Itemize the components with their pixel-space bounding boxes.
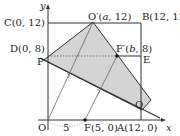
label-P: P	[37, 56, 44, 67]
label-C: C(0, 12)	[4, 17, 45, 28]
folded-region	[44, 22, 151, 110]
label-F-prime: F′(b, 8)	[116, 43, 152, 54]
right-angle-mark-2	[97, 89, 100, 94]
label-A: A(12, 0)	[116, 122, 158, 133]
label-B: B(12, 12)	[142, 11, 180, 22]
folding-diagram: y x O C(0, 12) B(12, 12) D(0, 8) P E O′(…	[0, 0, 180, 136]
label-F: F(5, 0)	[84, 122, 118, 133]
y-axis-arrow-icon	[46, 4, 50, 9]
label-D: D(0, 8)	[10, 43, 45, 54]
label-O-prime: O′(a, 12)	[88, 11, 131, 22]
origin-label: O	[38, 122, 46, 133]
x-axis-label: x	[166, 122, 172, 133]
label-OF-length: 5	[63, 122, 69, 133]
label-Q: Q	[135, 99, 143, 110]
label-E: E	[143, 54, 150, 65]
y-axis-label: y	[39, 0, 46, 11]
point-Fprime	[115, 54, 119, 58]
